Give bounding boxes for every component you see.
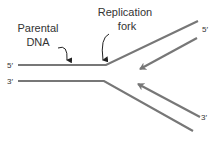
replication-fork-label-line2: fork	[118, 20, 137, 32]
replication-fork-pointer-icon	[102, 34, 109, 60]
parental-dna-label-line1: Parental	[18, 22, 59, 34]
replication-fork-diagram: Parental DNA Replication fork 5′ 3′ 5′ 3…	[0, 0, 217, 142]
replication-fork-label-line1: Replication	[98, 6, 152, 18]
parental-dna-pointer-icon	[58, 47, 67, 60]
strand-end-upper-left: 5′	[7, 61, 13, 70]
parental-dna-label-line2: DNA	[26, 36, 50, 48]
new-strand-lower-arrow	[138, 84, 200, 117]
parental-strand-lower	[18, 81, 193, 131]
strand-end-upper-right: 5′	[202, 25, 208, 34]
strand-end-lower-right: 3′	[201, 113, 207, 122]
strand-end-lower-left: 3′	[7, 77, 13, 86]
new-strand-upper-arrow	[140, 38, 197, 69]
